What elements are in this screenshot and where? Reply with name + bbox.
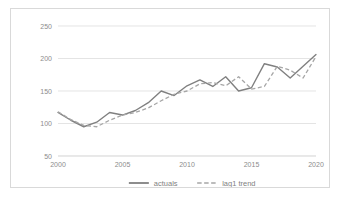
x-tick-label: 2005 [115,161,131,168]
x-tick-label: 2000 [50,161,66,168]
legend-label-lag1-trend: lag1 trend [222,179,255,187]
x-axis-tick-labels: 20002005201020152020 [50,161,324,168]
chart-legend: actualslag1 trend [129,179,256,187]
y-tick-label: 150 [40,88,52,95]
x-tick-label: 2015 [244,161,260,168]
x-tick-label: 2020 [308,161,324,168]
y-axis-tick-labels: 50100150200250 [40,23,52,160]
x-tick-label: 2010 [179,161,195,168]
y-tick-label: 50 [44,153,52,160]
series-line-lag1-trend [58,57,316,127]
legend-label-actuals: actuals [154,179,178,187]
y-tick-label: 250 [40,23,52,30]
y-tick-label: 200 [40,55,52,62]
y-tick-label: 100 [40,120,52,127]
line-chart: 50100150200250 20002005201020152020 actu… [11,9,329,187]
chart-container: 50100150200250 20002005201020152020 actu… [10,8,330,188]
